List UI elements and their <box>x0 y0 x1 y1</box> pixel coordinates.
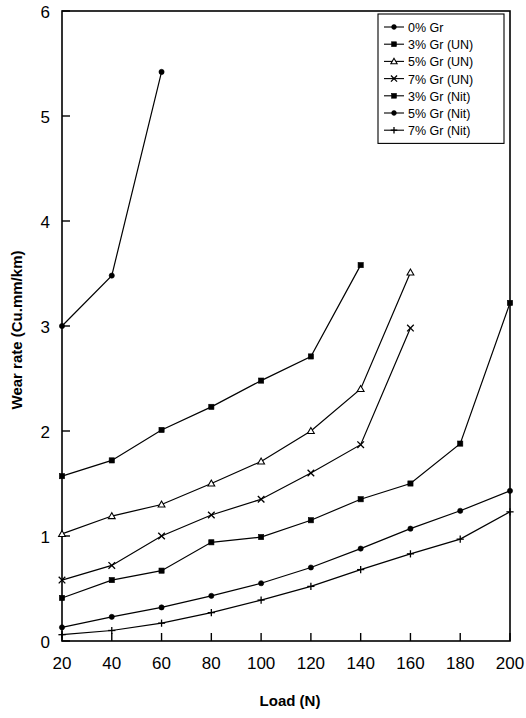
data-point-marker-cross-x <box>258 496 265 503</box>
data-point-marker-filled-square <box>159 427 164 432</box>
x-tick-label: 120 <box>297 654 325 673</box>
data-point-marker-filled-square <box>259 534 264 539</box>
wear-rate-chart-figure: 0123456 20406080100120140160180200 0% Gr… <box>0 0 526 718</box>
data-point-marker-filled-square <box>507 300 512 305</box>
data-point-marker-filled-square <box>209 540 214 545</box>
x-tick-label: 40 <box>102 654 121 673</box>
data-point-marker-filled-square <box>209 404 214 409</box>
y-tick-label: 3 <box>41 318 50 337</box>
data-point-marker-cross-x <box>158 533 165 540</box>
legend-item-label: 5% Gr (UN) <box>408 55 473 69</box>
legend-item-label: 7% Gr (Nit) <box>408 124 471 138</box>
series-3 <box>59 325 414 584</box>
data-point-marker-filled-square <box>392 93 397 98</box>
data-point-marker-plus <box>457 536 464 543</box>
x-tick-label: 20 <box>53 654 72 673</box>
data-point-marker-filled-circle <box>209 593 214 598</box>
y-tick-label: 0 <box>41 633 50 652</box>
chart-legend: 0% Gr3% Gr (UN)5% Gr (UN)7% Gr (UN)3% Gr… <box>378 14 504 143</box>
y-axis-tick-labels: 0123456 <box>41 3 50 652</box>
data-point-marker-filled-square <box>458 441 463 446</box>
data-point-marker-filled-square <box>59 595 64 600</box>
series-5 <box>59 488 512 630</box>
data-point-marker-filled-square <box>308 518 313 523</box>
data-point-marker-filled-square <box>59 474 64 479</box>
y-tick-label: 5 <box>41 108 50 127</box>
data-point-marker-cross-x <box>308 470 315 477</box>
data-point-marker-plus <box>208 609 215 616</box>
data-point-marker-filled-circle <box>259 581 264 586</box>
y-tick-label: 4 <box>41 213 50 232</box>
x-tick-label: 160 <box>396 654 424 673</box>
data-point-marker-filled-square <box>358 263 363 268</box>
data-point-marker-plus <box>407 550 414 557</box>
data-point-marker-plus <box>357 566 364 573</box>
x-tick-label: 140 <box>346 654 374 673</box>
x-axis-ticks <box>62 633 510 641</box>
y-tick-label: 6 <box>41 3 50 22</box>
data-point-marker-open-triangle <box>258 458 265 464</box>
y-tick-label: 1 <box>41 528 50 547</box>
data-point-marker-filled-square <box>259 378 264 383</box>
data-point-marker-filled-square <box>392 42 397 47</box>
data-point-marker-filled-circle <box>392 25 397 30</box>
data-point-marker-filled-circle <box>59 625 64 630</box>
legend-item-label: 3% Gr (Nit) <box>408 90 471 104</box>
data-point-marker-filled-circle <box>59 323 64 328</box>
data-point-marker-filled-square <box>308 354 313 359</box>
x-tick-label: 60 <box>152 654 171 673</box>
data-point-marker-filled-square <box>109 458 114 463</box>
legend-item-label: 7% Gr (UN) <box>408 73 473 87</box>
data-point-marker-filled-circle <box>358 546 363 551</box>
legend-item-label: 5% Gr (Nit) <box>408 107 471 121</box>
data-point-marker-plus <box>258 596 265 603</box>
data-point-marker-filled-circle <box>408 526 413 531</box>
data-point-marker-open-triangle <box>407 269 414 275</box>
x-tick-label: 80 <box>202 654 221 673</box>
series-1 <box>59 263 363 479</box>
legend-item-label: 3% Gr (UN) <box>408 38 473 52</box>
legend-item-label: 0% Gr <box>408 21 443 35</box>
series-0 <box>59 69 164 328</box>
data-point-marker-filled-square <box>159 568 164 573</box>
x-tick-label: 180 <box>446 654 474 673</box>
y-axis-title: Wear rate (Cu.mm/km) <box>8 251 25 410</box>
data-series-layer <box>58 69 513 638</box>
data-point-marker-filled-square <box>109 578 114 583</box>
x-tick-label: 200 <box>496 654 524 673</box>
x-axis-tick-labels: 20406080100120140160180200 <box>53 654 525 673</box>
data-point-marker-filled-square <box>358 497 363 502</box>
data-point-marker-cross-x <box>357 441 364 448</box>
data-point-marker-filled-circle <box>392 111 397 116</box>
x-tick-label: 100 <box>247 654 275 673</box>
data-point-marker-filled-circle <box>109 614 114 619</box>
x-axis-title: Load (N) <box>260 692 321 709</box>
data-point-marker-plus <box>506 508 513 515</box>
data-point-marker-open-triangle <box>357 386 364 392</box>
series-6 <box>58 508 513 638</box>
data-point-marker-filled-circle <box>159 69 164 74</box>
data-point-marker-plus <box>58 631 65 638</box>
data-point-marker-cross-x <box>407 325 414 332</box>
y-tick-label: 2 <box>41 423 50 442</box>
data-point-marker-filled-circle <box>109 273 114 278</box>
data-point-marker-filled-circle <box>458 508 463 513</box>
series-2 <box>59 269 414 536</box>
data-point-marker-plus <box>307 583 314 590</box>
data-point-marker-cross-x <box>108 562 115 569</box>
data-point-marker-plus <box>158 620 165 627</box>
chart-canvas: 0123456 20406080100120140160180200 0% Gr… <box>0 0 526 718</box>
data-point-marker-filled-circle <box>308 565 313 570</box>
data-point-marker-plus <box>108 627 115 634</box>
data-point-marker-filled-circle <box>159 605 164 610</box>
data-point-marker-filled-square <box>408 481 413 486</box>
data-point-marker-cross-x <box>208 512 215 519</box>
data-point-marker-filled-circle <box>507 488 512 493</box>
